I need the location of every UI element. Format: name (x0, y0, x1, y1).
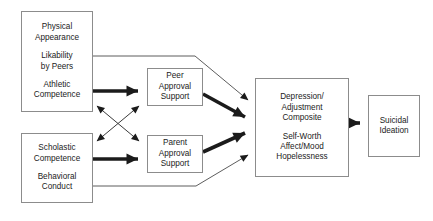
node-group: Self-Worth Affect/Mood Hopelessness (276, 132, 327, 163)
node-line: Affect/Mood (276, 142, 327, 152)
node-line: Competence (34, 90, 80, 100)
node-group: Physical Appearance (35, 22, 79, 43)
node-line: Scholastic (34, 143, 80, 153)
node-line: Support (159, 92, 191, 102)
node-group: Parent Approval Support (159, 138, 191, 169)
node-group: Depression/ Adjustment Composite (280, 92, 324, 123)
node-depression-composite[interactable]: Depression/ Adjustment Composite Self-Wo… (255, 78, 349, 177)
node-line: Athletic (34, 80, 80, 90)
node-line: Composite (280, 113, 324, 123)
node-line: Parent (159, 138, 191, 148)
node-self-concept-domains[interactable]: Physical Appearance Likability by Peers … (21, 11, 93, 112)
edge-peer-approval-to-composite (203, 94, 245, 117)
node-line: Competence (34, 154, 80, 164)
node-line: Approval (159, 82, 191, 92)
node-group: Likability by Peers (41, 51, 73, 72)
node-peer-approval-support[interactable]: Peer Approval Support (147, 68, 203, 106)
node-line: Physical (35, 22, 79, 32)
node-line: Self-Worth (276, 132, 327, 142)
node-line: Behavioral (38, 172, 77, 182)
node-line: Hopelessness (276, 152, 327, 162)
node-group: Behavioral Conduct (38, 172, 77, 193)
node-line: Depression/ (280, 92, 324, 102)
edge-parent-approval-to-composite (203, 133, 245, 152)
node-line: Conduct (38, 182, 77, 192)
node-line: Suicidal (379, 116, 408, 126)
node-line: Likability (41, 51, 73, 61)
node-line: Adjustment (280, 103, 324, 113)
node-group: Peer Approval Support (159, 71, 191, 102)
node-line: Ideation (379, 126, 408, 136)
path-diagram: Physical Appearance Likability by Peers … (0, 0, 433, 221)
node-line: Peer (159, 71, 191, 81)
node-line: Appearance (35, 33, 79, 43)
node-group: Scholastic Competence (34, 143, 80, 164)
node-line: Approval (159, 149, 191, 159)
node-school-behavior-domains[interactable]: Scholastic Competence Behavioral Conduct (21, 133, 93, 203)
node-group: Athletic Competence (34, 80, 80, 101)
node-parent-approval-support[interactable]: Parent Approval Support (147, 135, 203, 173)
node-line: Support (159, 159, 191, 169)
node-line: by Peers (41, 62, 73, 72)
node-suicidal-ideation[interactable]: Suicidal Ideation (368, 95, 420, 157)
node-group: Suicidal Ideation (379, 116, 408, 137)
